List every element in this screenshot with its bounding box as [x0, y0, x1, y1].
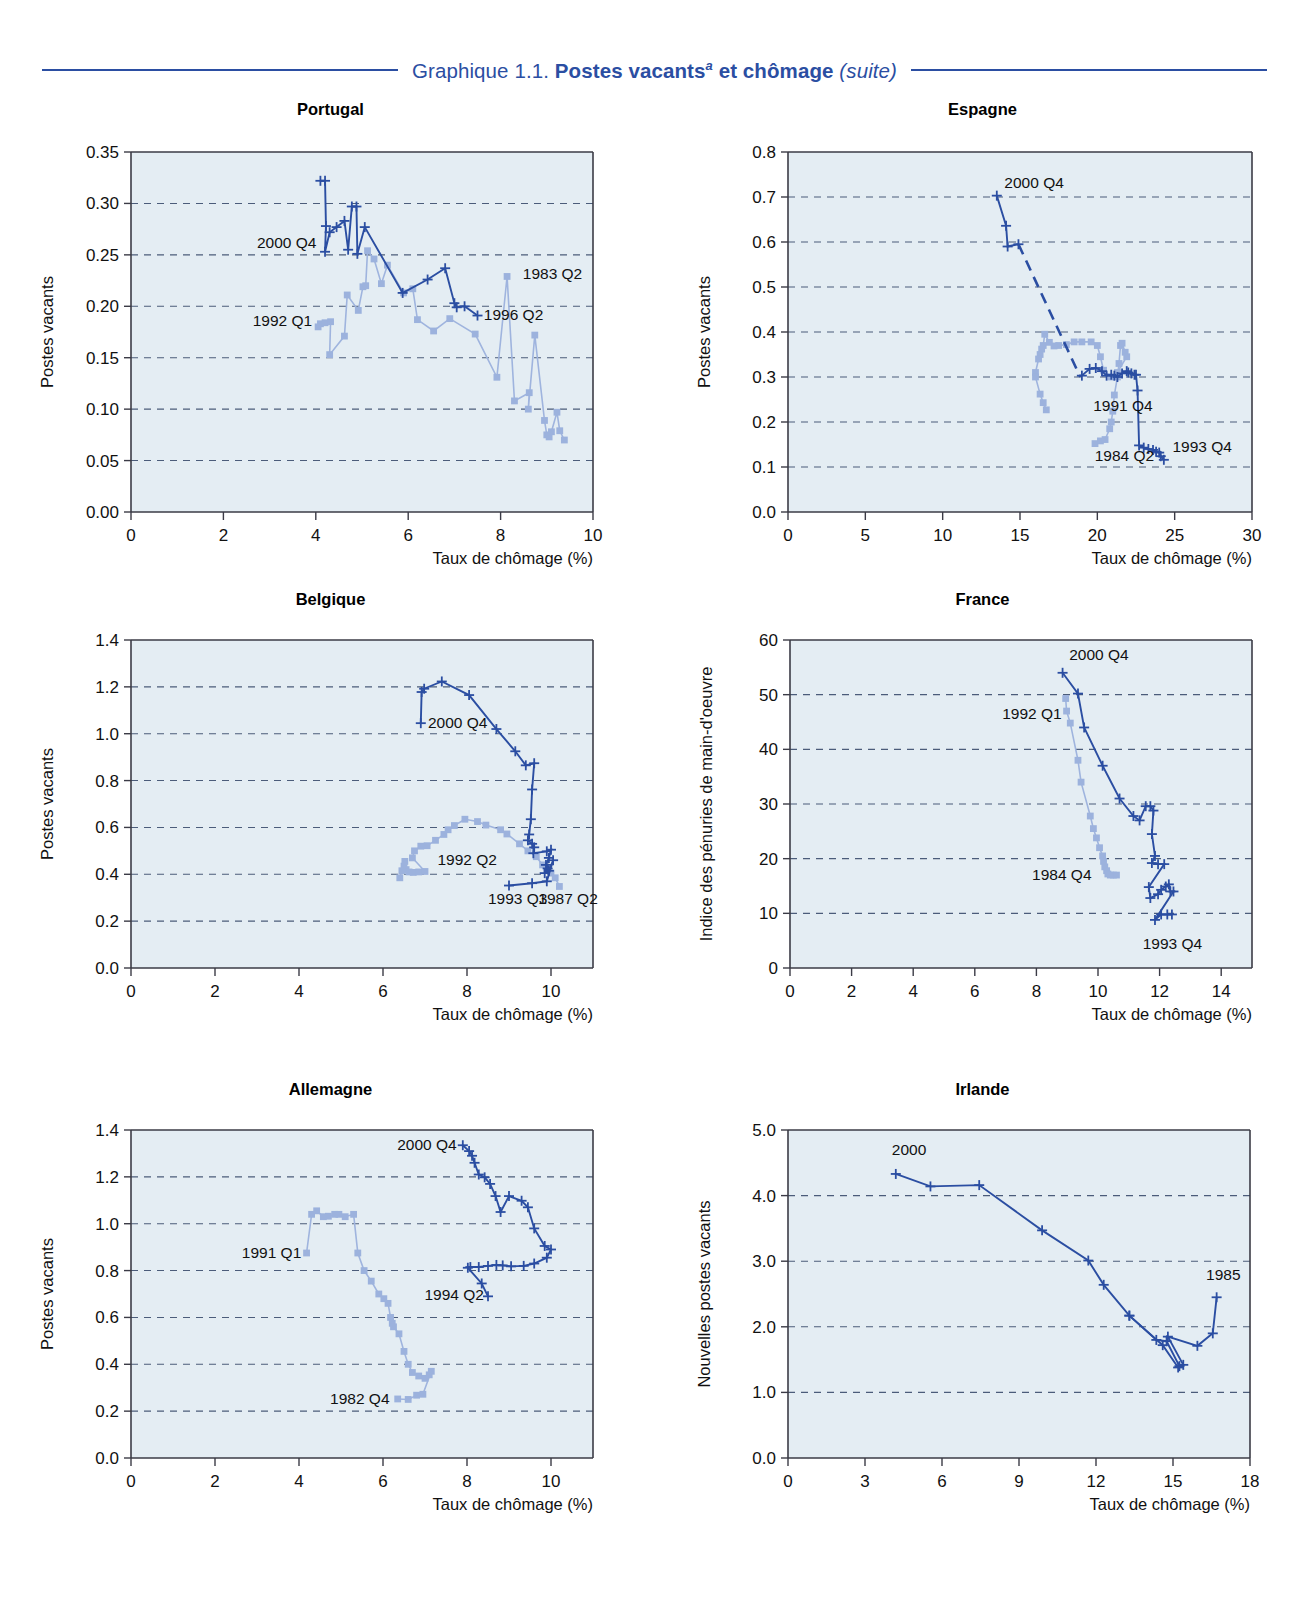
figure-title-suite: (suite) [839, 58, 897, 81]
y-tick-label: 0.15 [86, 349, 119, 368]
chart-svg-allemagne: 0.00.20.40.60.81.01.21.40246810Postes va… [8, 1080, 653, 1530]
chart-annotation: 1992 Q2 [438, 851, 497, 868]
data-point [531, 332, 538, 339]
data-point [504, 831, 511, 838]
data-point [526, 389, 533, 396]
x-tick-label: 2 [210, 1472, 219, 1491]
y-tick-label: 0.0 [752, 1449, 776, 1468]
data-point [1046, 339, 1053, 346]
y-tick-label: 30 [759, 795, 778, 814]
data-point [355, 307, 362, 314]
y-tick-label: 0.2 [95, 912, 119, 931]
data-point [405, 1361, 412, 1368]
y-tick-label: 0.1 [752, 458, 776, 477]
y-tick-label: 10 [759, 904, 778, 923]
chart-title-portugal: Portugal [8, 100, 653, 119]
chart-annotation: 2000 [892, 1141, 927, 1158]
data-point [1062, 695, 1069, 702]
chart-panel-belgique: Belgique0.00.20.40.60.81.01.21.40246810P… [8, 590, 653, 1040]
data-point [368, 1278, 375, 1285]
y-tick-label: 0.10 [86, 400, 119, 419]
y-tick-label: 0.8 [95, 772, 119, 791]
x-tick-label: 4 [294, 982, 303, 1001]
x-tick-label: 10 [542, 982, 561, 1001]
x-tick-label: 4 [311, 526, 320, 545]
figure-title: Graphique 1.1. Postes vacantsa et chômag… [412, 58, 897, 83]
data-point [1043, 406, 1050, 413]
chart-annotation: 1984 Q4 [1032, 866, 1092, 883]
x-tick-label: 12 [1087, 1472, 1106, 1491]
data-point [422, 868, 429, 875]
data-point [350, 1211, 357, 1218]
data-point [1097, 353, 1104, 360]
data-point [344, 292, 351, 299]
data-point [1108, 419, 1115, 426]
y-tick-label: 0.25 [86, 246, 119, 265]
y-tick-label: 1.0 [95, 1215, 119, 1234]
y-tick-label: 0.4 [95, 865, 119, 884]
y-tick-label: 5.0 [752, 1121, 776, 1140]
chart-title-irlande: Irlande [660, 1080, 1305, 1099]
data-point [511, 398, 518, 405]
x-tick-label: 4 [908, 982, 917, 1001]
x-tick-label: 10 [584, 526, 603, 545]
data-point [445, 826, 452, 833]
data-point [561, 437, 568, 444]
data-point [341, 333, 348, 340]
x-axis-title: Taux de chômage (%) [433, 1495, 594, 1513]
x-tick-label: 0 [785, 982, 794, 1001]
chart-annotation: 1987 Q2 [538, 890, 597, 907]
data-point [424, 842, 431, 849]
data-point [390, 1323, 397, 1330]
y-tick-label: 0.0 [752, 503, 776, 522]
figure-title-rest: et chômage [719, 58, 834, 81]
x-tick-label: 15 [1011, 526, 1030, 545]
y-tick-label: 2.0 [752, 1318, 776, 1337]
y-tick-label: 50 [759, 686, 778, 705]
x-tick-label: 10 [1089, 982, 1108, 1001]
chart-annotation: 1991 Q1 [242, 1244, 301, 1261]
data-point [414, 316, 421, 323]
chart-title-belgique: Belgique [8, 590, 653, 609]
data-point [411, 847, 418, 854]
data-point [1040, 399, 1047, 406]
chart-title-espagne: Espagne [660, 100, 1305, 119]
chart-svg-portugal: 0.000.050.100.150.200.250.300.350246810P… [8, 100, 653, 570]
data-point [1113, 872, 1120, 879]
data-point [371, 256, 378, 263]
y-tick-label: 4.0 [752, 1187, 776, 1206]
x-tick-label: 15 [1164, 1472, 1183, 1491]
data-point [1071, 339, 1078, 346]
y-tick-label: 0.4 [752, 323, 776, 342]
data-point [1035, 356, 1042, 363]
chart-panel-france: France010203040506002468101214Indice des… [660, 590, 1305, 1040]
data-point [1078, 779, 1085, 786]
y-tick-label: 0.6 [95, 1308, 119, 1327]
data-point [326, 351, 333, 358]
data-point [1067, 720, 1074, 727]
data-point [409, 1369, 416, 1376]
data-point [396, 1330, 403, 1337]
data-point [325, 1213, 332, 1220]
data-point [1088, 339, 1095, 346]
data-point [472, 331, 479, 338]
data-point [313, 1207, 320, 1214]
chart-svg-france: 010203040506002468101214Indice des pénur… [660, 590, 1305, 1040]
x-tick-label: 8 [1032, 982, 1041, 1001]
data-point [556, 883, 563, 890]
data-point [474, 818, 481, 825]
data-point [494, 374, 501, 381]
data-point [303, 1250, 310, 1257]
data-point [552, 874, 559, 881]
data-point [401, 858, 408, 865]
y-tick-label: 20 [759, 850, 778, 869]
x-tick-label: 0 [126, 526, 135, 545]
data-point [462, 816, 469, 823]
y-tick-label: 3.0 [752, 1252, 776, 1271]
x-tick-label: 25 [1165, 526, 1184, 545]
data-point [1075, 757, 1082, 764]
data-point [405, 1396, 412, 1403]
data-point [446, 315, 453, 322]
y-tick-label: 0.8 [752, 143, 776, 162]
data-point [483, 822, 490, 829]
